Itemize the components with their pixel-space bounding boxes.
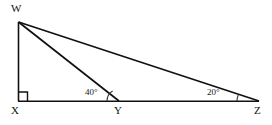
segment-WZ [19, 22, 260, 101]
right-angle-marker-x [19, 92, 28, 101]
vertex-label-w: W [11, 3, 21, 14]
segment-WY [19, 22, 120, 101]
angle-arc-z [237, 94, 238, 101]
angle-label-y: 40° [85, 88, 98, 97]
vertex-label-y: Y [114, 105, 122, 116]
angle-label-z: 20° [207, 88, 220, 97]
triangle-diagram-canvas [0, 0, 272, 125]
vertex-label-x: X [11, 105, 19, 116]
vertex-label-z: Z [254, 105, 261, 116]
geometry-figure: W X Y Z 40° 20° [0, 0, 272, 125]
